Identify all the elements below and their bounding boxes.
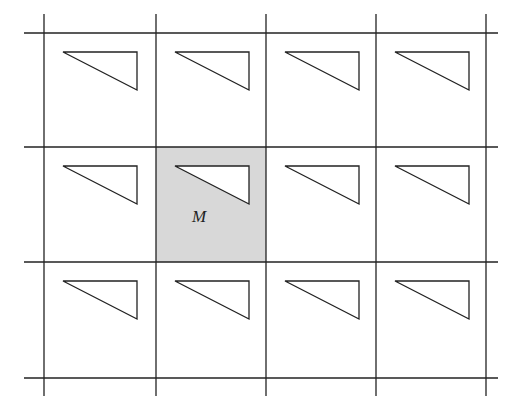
triangle-motif: [175, 281, 249, 319]
triangle-motif: [285, 281, 359, 319]
triangle-motif: [395, 166, 469, 204]
triangle-motif: [175, 52, 249, 90]
triangle-motif: [285, 166, 359, 204]
triangle-motif: [395, 52, 469, 90]
triangle-motif: [285, 52, 359, 90]
triangle-motif: [63, 166, 137, 204]
triangle-motif: [395, 281, 469, 319]
cell-label-m: M: [191, 207, 207, 226]
triangle-motif: [63, 52, 137, 90]
triangle-motif: [63, 281, 137, 319]
lattice-diagram: M: [0, 0, 516, 409]
